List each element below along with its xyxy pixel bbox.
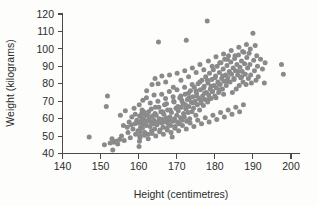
data-point xyxy=(149,107,154,112)
y-axis-title: Weight (kilograms) xyxy=(4,39,16,126)
data-point xyxy=(263,60,268,65)
data-point xyxy=(105,93,110,98)
data-point xyxy=(236,45,241,50)
data-point xyxy=(178,78,183,83)
data-point xyxy=(210,113,215,118)
data-point xyxy=(224,83,229,88)
data-point xyxy=(252,68,257,73)
data-point xyxy=(210,89,215,94)
data-point xyxy=(247,51,252,56)
x-tick-label: 190 xyxy=(244,160,262,172)
data-point xyxy=(191,124,196,129)
data-point xyxy=(221,92,226,97)
x-axis-title: Height (centimetres) xyxy=(134,188,229,200)
data-point xyxy=(233,105,238,110)
data-point xyxy=(251,58,256,63)
data-point xyxy=(186,74,191,79)
data-point xyxy=(221,52,226,57)
data-point xyxy=(153,111,158,116)
data-point xyxy=(258,57,263,62)
y-axis-ticks: 405060708090100110120 xyxy=(36,8,62,160)
data-point xyxy=(168,107,173,112)
data-point xyxy=(205,78,210,83)
data-point xyxy=(244,42,249,47)
data-point xyxy=(138,135,143,140)
data-point xyxy=(137,102,142,107)
data-point xyxy=(188,120,193,125)
data-point xyxy=(244,82,249,87)
data-point xyxy=(168,123,173,128)
data-point xyxy=(152,93,157,98)
data-point xyxy=(144,95,149,100)
data-point xyxy=(202,91,207,96)
data-point xyxy=(260,66,265,71)
data-point xyxy=(142,133,147,138)
data-point xyxy=(235,69,240,74)
data-point xyxy=(148,100,153,105)
x-axis-ticks: 140150160170180190200 xyxy=(54,154,300,173)
data-point xyxy=(222,114,227,119)
data-point xyxy=(199,121,204,126)
data-point xyxy=(137,114,142,119)
data-point xyxy=(249,80,254,85)
data-point xyxy=(193,113,198,118)
x-tick-label: 150 xyxy=(92,160,110,172)
data-point xyxy=(262,80,267,85)
data-point xyxy=(163,96,168,101)
data-point xyxy=(153,134,158,139)
data-point xyxy=(195,118,200,123)
data-point xyxy=(239,74,244,79)
data-point xyxy=(248,46,253,51)
data-point xyxy=(213,54,218,59)
plot-canvas: 405060708090100110120 140150160170180190… xyxy=(0,0,317,206)
data-point xyxy=(229,112,234,117)
data-point xyxy=(244,55,249,60)
data-point xyxy=(187,116,192,121)
data-point xyxy=(175,71,180,76)
y-tick-label: 60 xyxy=(42,112,54,124)
data-point xyxy=(194,70,199,75)
data-point xyxy=(250,31,255,36)
data-point xyxy=(169,130,174,135)
data-point xyxy=(156,81,161,86)
data-point xyxy=(102,142,107,147)
data-point xyxy=(254,53,259,58)
data-point xyxy=(201,67,206,72)
data-point xyxy=(164,101,169,106)
data-point xyxy=(217,60,222,65)
data-point xyxy=(156,105,161,110)
data-point xyxy=(159,73,164,78)
data-point xyxy=(242,61,247,66)
data-point xyxy=(104,104,109,109)
data-point xyxy=(187,95,192,100)
data-point xyxy=(240,49,245,54)
data-point xyxy=(110,148,115,153)
data-point xyxy=(141,109,146,114)
data-point xyxy=(179,98,184,103)
data-point xyxy=(221,66,226,71)
data-point xyxy=(118,113,123,118)
y-tick-label: 100 xyxy=(36,43,54,55)
data-point xyxy=(194,93,199,98)
data-point xyxy=(197,107,202,112)
data-point xyxy=(220,73,225,78)
data-point xyxy=(248,73,253,78)
data-point xyxy=(256,74,261,79)
data-point xyxy=(186,91,191,96)
data-point xyxy=(281,72,286,77)
data-point xyxy=(206,59,211,64)
data-point xyxy=(174,87,179,92)
data-point xyxy=(184,38,189,43)
data-point xyxy=(201,103,206,108)
data-point xyxy=(130,127,135,132)
data-point xyxy=(180,123,185,128)
data-point xyxy=(191,100,196,105)
data-point xyxy=(153,76,158,81)
data-point xyxy=(119,134,124,139)
x-tick-label: 180 xyxy=(206,160,224,172)
data-point xyxy=(182,68,187,73)
data-point xyxy=(182,85,187,90)
data-point xyxy=(229,48,234,53)
data-point xyxy=(145,113,150,118)
data-point xyxy=(225,57,230,62)
